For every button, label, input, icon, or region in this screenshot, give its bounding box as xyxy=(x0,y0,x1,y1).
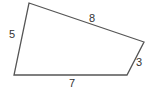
quadrilateral-shape xyxy=(14,3,144,75)
side-label-bottom: 7 xyxy=(69,77,75,89)
side-label-top: 8 xyxy=(89,12,95,24)
side-label-right: 3 xyxy=(136,56,142,68)
quadrilateral-diagram: 5 8 3 7 xyxy=(0,0,155,89)
side-label-left: 5 xyxy=(9,28,15,40)
